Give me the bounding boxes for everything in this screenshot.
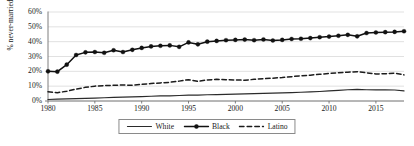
data-point-black xyxy=(102,51,106,55)
solid-line-key xyxy=(126,122,152,131)
series-line-black xyxy=(48,31,404,71)
data-point-black xyxy=(55,70,59,74)
data-point-black xyxy=(346,33,350,37)
data-point-black xyxy=(243,38,247,42)
chart-figure: % never-married 0%10%20%30%40%50%60% 198… xyxy=(0,0,414,146)
y-tick-label: 20% xyxy=(18,67,42,75)
x-axis-tick-labels: 19801985199019952000200520102015 xyxy=(0,104,414,116)
data-point-black xyxy=(364,31,368,35)
dashed-line-key xyxy=(239,122,265,131)
x-tick-label: 1980 xyxy=(40,104,55,113)
data-point-black xyxy=(336,34,340,38)
data-point-black xyxy=(186,40,190,44)
legend-label: White xyxy=(155,122,174,131)
data-point-black xyxy=(93,50,97,54)
x-tick-label: 1995 xyxy=(181,104,196,113)
data-point-black xyxy=(46,69,50,73)
data-point-black xyxy=(83,50,87,54)
data-point-black xyxy=(65,63,69,67)
y-tick-label: 60% xyxy=(18,8,42,16)
data-point-black xyxy=(121,50,125,54)
data-point-black xyxy=(383,30,387,34)
legend-label: Black xyxy=(212,122,230,131)
y-axis-tick-labels: 0%10%20%30%40%50%60% xyxy=(18,0,42,146)
x-tick-label: 2000 xyxy=(228,104,243,113)
data-point-black xyxy=(327,35,331,39)
data-point-black xyxy=(205,40,209,44)
data-point-black xyxy=(168,43,172,47)
x-tick-label: 1990 xyxy=(134,104,149,113)
data-point-black xyxy=(290,37,294,41)
y-tick-label: 40% xyxy=(18,38,42,46)
data-point-black xyxy=(299,37,303,41)
legend-key-marker xyxy=(194,124,198,128)
x-tick-label: 1985 xyxy=(87,104,102,113)
legend-item-white[interactable]: White xyxy=(126,122,174,131)
data-point-black xyxy=(177,45,181,49)
data-point-black xyxy=(233,38,237,42)
data-point-black xyxy=(224,38,228,42)
chart-legend: WhiteBlackLatino xyxy=(118,119,295,134)
data-point-black xyxy=(112,48,116,52)
x-tick-label: 2015 xyxy=(368,104,383,113)
x-tick-label: 2005 xyxy=(275,104,290,113)
series-line-white xyxy=(48,89,404,99)
data-point-black xyxy=(374,30,378,34)
plot-canvas xyxy=(48,12,404,101)
data-point-black xyxy=(140,46,144,50)
data-point-black xyxy=(149,44,153,48)
data-point-black xyxy=(355,34,359,38)
data-point-black xyxy=(74,53,78,57)
x-tick-label: 2010 xyxy=(321,104,336,113)
data-point-black xyxy=(318,35,322,39)
data-point-black xyxy=(158,44,162,48)
data-point-black xyxy=(402,29,406,33)
data-point-black xyxy=(280,38,284,42)
legend-item-latino[interactable]: Latino xyxy=(239,122,288,131)
data-point-black xyxy=(215,39,219,43)
y-tick-label: 30% xyxy=(18,53,42,61)
plot-area xyxy=(48,12,404,101)
legend-item-black[interactable]: Black xyxy=(183,122,230,131)
data-point-black xyxy=(308,36,312,40)
y-tick-label: 50% xyxy=(18,23,42,31)
solid-line-marker-key xyxy=(183,122,209,131)
data-point-black xyxy=(271,38,275,42)
data-point-black xyxy=(130,48,134,52)
data-point-black xyxy=(261,37,265,41)
data-point-black xyxy=(252,38,256,42)
y-tick-label: 10% xyxy=(18,82,42,90)
legend-label: Latino xyxy=(268,122,288,131)
data-point-black xyxy=(393,30,397,34)
data-point-black xyxy=(196,42,200,46)
